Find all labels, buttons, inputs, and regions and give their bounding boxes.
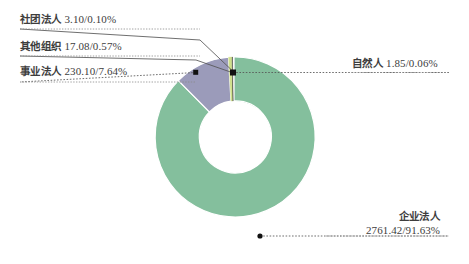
- label-shiye-name: 事业法人: [20, 65, 62, 77]
- label-qiye-faren: 企业法人 2761.42/91.63%: [366, 210, 440, 237]
- label-qiye-value: 2761.42/91.63%: [366, 224, 440, 237]
- label-shetuan-faren: 社团法人 3.10/0.10%: [20, 13, 116, 26]
- donut-slices: [155, 57, 315, 217]
- marker-qiye: [257, 233, 262, 238]
- marker-ziran: [230, 70, 236, 76]
- label-shetuan-value: 3.10/0.10%: [64, 13, 116, 25]
- label-ziran-name: 自然人: [352, 57, 383, 69]
- marker-shiye: [193, 70, 198, 75]
- label-ziran-ren: 自然人 1.85/0.06%: [352, 57, 438, 70]
- label-shiye-faren: 事业法人 230.10/7.64%: [20, 65, 127, 78]
- label-shetuan-name: 社团法人: [20, 13, 62, 25]
- label-qiye-name: 企业法人: [366, 210, 440, 223]
- label-qita-zuzhi: 其他组织 17.08/0.57%: [20, 40, 122, 53]
- label-qita-name: 其他组织: [20, 40, 62, 52]
- label-ziran-value: 1.85/0.06%: [386, 57, 438, 69]
- label-qita-value: 17.08/0.57%: [64, 40, 121, 52]
- label-shiye-value: 230.10/7.64%: [64, 65, 127, 77]
- chart-figure: 社团法人 3.10/0.10% 其他组织 17.08/0.57% 事业法人 23…: [0, 0, 469, 264]
